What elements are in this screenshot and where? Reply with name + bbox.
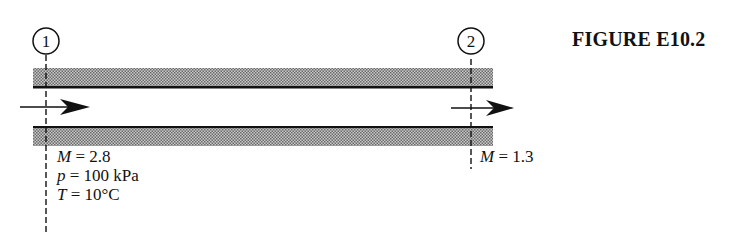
mach-value: 1.3: [512, 147, 533, 166]
top-wall-shading: [33, 68, 493, 86]
station-1-mach-label: M = 2.8: [57, 147, 111, 166]
outlet-flow-arrow-icon: [451, 100, 514, 116]
station-1-number: 1: [42, 32, 51, 51]
top-wall: [33, 68, 493, 89]
pressure-symbol: p: [57, 166, 66, 185]
mach-symbol: M: [480, 147, 494, 166]
station-2-number: 2: [467, 32, 476, 51]
equals-sign: =: [66, 166, 84, 185]
top-wall-line: [33, 86, 493, 89]
inlet-flow-arrow-icon: [20, 99, 90, 115]
bottom-wall-shading: [33, 129, 493, 147]
mach-symbol: M: [57, 147, 71, 166]
figure-e10-2-diagram: 1 2 M = 2.8 p = 100 kPa T = 10°C M = 1.3…: [0, 0, 755, 247]
equals-sign: =: [494, 147, 512, 166]
bottom-wall-line: [33, 126, 493, 129]
station-1-pressure-label: p = 100 kPa: [57, 166, 139, 185]
bottom-wall: [33, 126, 493, 146]
equals-sign: =: [66, 185, 84, 204]
equals-sign: =: [71, 147, 89, 166]
station-1-temperature-label: T = 10°C: [57, 185, 120, 204]
pressure-value: 100 kPa: [84, 166, 139, 185]
temperature-value: 10°C: [85, 185, 120, 204]
figure-title: FIGURE E10.2: [572, 28, 706, 51]
mach-value: 2.8: [89, 147, 110, 166]
station-2-mach-label: M = 1.3: [480, 147, 534, 166]
